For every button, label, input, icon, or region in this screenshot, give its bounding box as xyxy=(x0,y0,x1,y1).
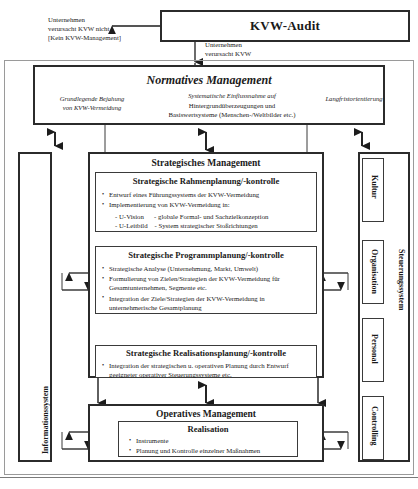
operatives-management-title: Operatives Management xyxy=(156,409,256,419)
normative-center-line-1: Systematische Einflussnahme auf xyxy=(143,92,321,101)
bullet-item: Strategische Analyse (Unternehmung, Mark… xyxy=(102,264,312,273)
strategische-realisationsplanung-box: Strategische Realisationsplanung/-kontro… xyxy=(95,345,317,378)
personal-label: Personal xyxy=(370,334,379,364)
strategische-programmplanung-box: Strategische Programmplanung/-kontrolle … xyxy=(95,246,317,314)
bullet-item: Entwurf eines Führungssystems der KVW-Ve… xyxy=(102,190,312,199)
left-branch-line-2: verursacht KVW nicht xyxy=(48,24,158,33)
bullet-item: Instrumente xyxy=(129,436,293,445)
steuerungssystem-label: Steuerungssystem xyxy=(397,249,406,310)
bullet-item: Integration der strategischen u. operati… xyxy=(102,361,312,379)
sub-line: - U-Vision - globale Formal- und Sachzie… xyxy=(115,212,312,221)
normative-right-text: Langfristorientierung xyxy=(323,95,385,104)
programmplanung-heading: Strategische Programmplanung/-kontrolle xyxy=(128,250,284,260)
normatives-management-box: Normatives Management Grundlegende Bejah… xyxy=(33,65,385,125)
kvw-audit-box: KVW-Audit xyxy=(160,10,410,42)
rahmenplanung-bullets: Entwurf eines Führungssystems der KVW-Ve… xyxy=(102,190,312,210)
sub-line: - U-Leitbild - System strategischer Stoß… xyxy=(115,221,312,230)
realisation-box: Realisation Instrumente Planung und Kont… xyxy=(118,421,298,457)
realisationsplanung-bullets: Integration der strategischen u. operati… xyxy=(102,361,312,380)
steuerungssystem-item-kultur: Kultur xyxy=(362,158,384,222)
controlling-label: Controlling xyxy=(370,406,379,445)
realisation-bullets: Instrumente Planung und Kontrolle einzel… xyxy=(129,436,293,456)
strategisches-management-title: Strategisches Management xyxy=(152,158,261,168)
down-branch-line-1: Unternehmen xyxy=(205,40,325,49)
bullet-item: Planung und Kontrolle einzelner Maßnahme… xyxy=(129,446,293,455)
realisation-heading: Realisation xyxy=(187,424,228,434)
bottom-rule xyxy=(0,477,418,478)
bullet-item: Implementierung von KVW-Vermeidung in: xyxy=(102,200,312,209)
normative-left-line-2: von KVW-Vermeidung xyxy=(43,104,141,113)
organisation-label: Organisation xyxy=(370,249,379,294)
realisationsplanung-heading: Strategische Realisationsplanung/-kontro… xyxy=(126,348,286,358)
strategische-rahmenplanung-box: Strategische Rahmenplanung/-kontrolle En… xyxy=(95,172,317,232)
normative-center-text: Systematische Einflussnahme auf Hintergr… xyxy=(143,92,321,119)
rahmenplanung-sublines: - U-Vision - globale Formal- und Sachzie… xyxy=(108,212,312,230)
bullet-item: Integration der Ziele/Strategien der KVW… xyxy=(102,294,312,312)
kultur-label: Kultur xyxy=(370,175,379,199)
informationssystem-box: Informationssystem xyxy=(18,152,52,462)
normative-center-line-3: Basiswertsysteme (Menschen-/Weltbilder e… xyxy=(143,110,321,119)
left-branch-line-3: [Kein KVW-Management] xyxy=(48,33,158,42)
steuerungssystem-item-controlling: Controlling xyxy=(362,396,384,460)
down-branch-line-2: verursacht KVW xyxy=(205,49,325,58)
left-branch-line-1: Unternehmen xyxy=(48,15,158,24)
normatives-management-title: Normatives Management xyxy=(147,73,272,88)
normative-right-line-1: Langfristorientierung xyxy=(323,95,385,104)
kvw-audit-title: KVW-Audit xyxy=(250,18,320,34)
steuerungssystem-item-organisation: Organisation xyxy=(362,240,384,304)
normative-left-line-1: Grundlegende Bejahung xyxy=(43,95,141,104)
normative-left-text: Grundlegende Bejahung von KVW-Vermeidung xyxy=(43,95,141,113)
rahmenplanung-heading: Strategische Rahmenplanung/-kontrolle xyxy=(133,176,280,186)
normative-center-line-2: Hintergrundüberzeugungen und xyxy=(143,101,321,110)
down-branch-label: Unternehmen verursacht KVW xyxy=(205,40,325,58)
steuerungssystem-item-personal: Personal xyxy=(362,318,384,382)
programmplanung-bullets: Strategische Analyse (Unternehmung, Mark… xyxy=(102,264,312,313)
left-branch-label: Unternehmen verursacht KVW nicht [Kein K… xyxy=(48,15,158,43)
informationssystem-label: Informationssystem xyxy=(41,386,50,454)
bullet-item: Formulierung von Zielen/Strategien der K… xyxy=(102,274,312,292)
